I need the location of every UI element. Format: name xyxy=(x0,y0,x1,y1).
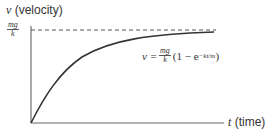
diagram-plot xyxy=(0,0,269,132)
tick-denominator: k xyxy=(11,30,15,38)
formula-exponent: −kt/m xyxy=(199,52,216,60)
y-axis-variable: v xyxy=(6,3,11,17)
x-axis-variable: t xyxy=(228,115,231,129)
formula-fraction: mg k xyxy=(159,47,171,64)
formula-paren-close: ) xyxy=(215,50,219,62)
y-axis-label-text: (velocity) xyxy=(15,3,63,17)
x-axis-label: t (time) xyxy=(228,115,265,130)
x-axis-label-text: (time) xyxy=(235,115,266,129)
velocity-formula: v = mg k (1 − e −kt/m ) xyxy=(142,47,219,64)
formula-denominator: k xyxy=(163,56,167,64)
terminal-velocity-tick-label: mg k xyxy=(7,21,19,38)
formula-paren-open: (1 − e xyxy=(173,50,199,62)
velocity-curve xyxy=(31,32,214,123)
y-axis-label: v (velocity) xyxy=(6,3,63,18)
velocity-time-diagram: v (velocity) mg k v = mg k (1 − e −kt/m … xyxy=(0,0,269,132)
formula-lhs: v = xyxy=(142,50,157,62)
